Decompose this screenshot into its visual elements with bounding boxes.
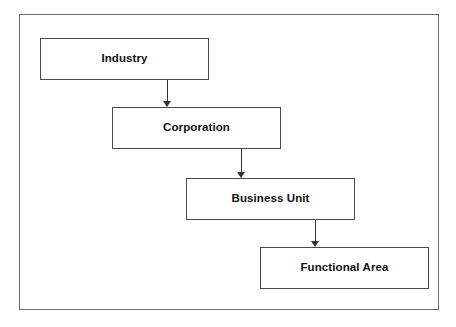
arrow-industry-to-corporation bbox=[163, 80, 172, 107]
node-industry[interactable]: Industry bbox=[40, 38, 209, 80]
arrow-stem bbox=[167, 80, 168, 102]
arrow-stem bbox=[315, 220, 316, 242]
arrow-stem bbox=[241, 149, 242, 173]
node-business-unit-label: Business Unit bbox=[232, 193, 310, 205]
arrow-corporation-to-business-unit bbox=[237, 149, 246, 178]
diagram-frame: Industry Corporation Business Unit Funct… bbox=[19, 14, 439, 310]
arrow-business-unit-to-functional-area bbox=[311, 220, 320, 247]
node-functional-area[interactable]: Functional Area bbox=[260, 247, 429, 289]
node-business-unit[interactable]: Business Unit bbox=[186, 178, 355, 220]
node-industry-label: Industry bbox=[101, 53, 147, 65]
node-functional-area-label: Functional Area bbox=[301, 262, 389, 274]
node-corporation[interactable]: Corporation bbox=[112, 107, 281, 149]
node-corporation-label: Corporation bbox=[163, 122, 230, 134]
